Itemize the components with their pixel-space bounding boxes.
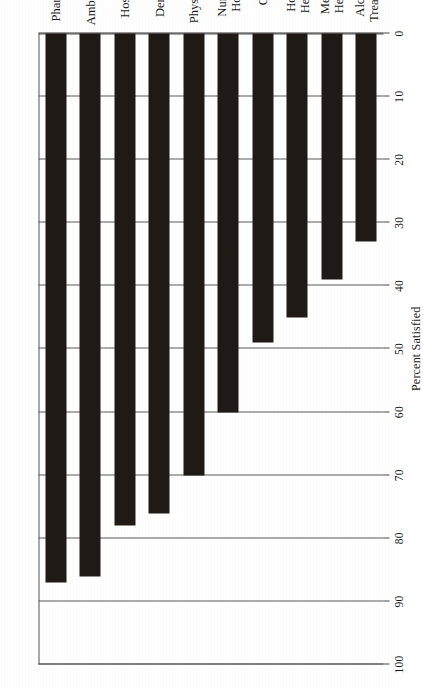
bar: [79, 33, 100, 576]
bar: [321, 33, 342, 279]
category-label-line: Treatment: [366, 0, 380, 25]
tick-label: 20: [392, 153, 404, 165]
category-label: AlcoholTreatment: [352, 0, 380, 25]
tick-mark-80: [383, 537, 389, 538]
category-label: Dentists: [152, 0, 166, 25]
category-label-line: Home: [228, 0, 242, 25]
category-label: Hospital: [117, 0, 131, 25]
category-label-line: Alcohol: [352, 0, 366, 25]
category-label: NursingHome: [214, 0, 242, 25]
category-label-line: Nursing: [214, 0, 228, 25]
category-label: Pharmacy: [48, 0, 62, 25]
category-label-line: Physicians: [186, 0, 200, 25]
category-label-line: OB: [255, 0, 269, 25]
tick-label: 80: [392, 532, 404, 544]
tick-mark-90: [383, 600, 389, 601]
category-label-line: Ambulance: [83, 0, 97, 25]
bar: [183, 33, 204, 475]
category-label-line: Mental: [317, 0, 331, 25]
bar: [252, 33, 273, 342]
tick-label: 30: [392, 216, 404, 228]
tick-label: 10: [392, 90, 404, 102]
tick-mark-60: [383, 411, 389, 412]
bar: [217, 33, 238, 412]
category-label-line: Hospital: [117, 0, 131, 25]
category-label: Physicians: [186, 0, 200, 25]
tick-mark-100: [383, 663, 389, 664]
tick-label: 100: [392, 655, 404, 673]
tick-mark-20: [383, 158, 389, 159]
bar: [355, 33, 376, 241]
tick-label: 60: [392, 406, 404, 418]
tick-mark-30: [383, 221, 389, 222]
bar: [45, 33, 66, 582]
tick-mark-10: [383, 95, 389, 96]
gridline-100: [38, 663, 383, 664]
category-label: HomeHealth: [283, 0, 311, 25]
tick-label: 50: [392, 342, 404, 354]
tick-label: 70: [392, 469, 404, 481]
category-label-line: Home: [283, 0, 297, 25]
tick-label: 90: [392, 595, 404, 607]
category-label: MentalHealth: [317, 0, 345, 25]
category-label-line: Health: [297, 0, 311, 25]
tick-label: 0: [392, 30, 404, 36]
bar: [148, 33, 169, 513]
bar: [114, 33, 135, 525]
value-axis-title: Percent Satisfied: [408, 306, 423, 390]
tick-mark-40: [383, 284, 389, 285]
category-label-line: Health: [331, 0, 345, 25]
category-label: Ambulance: [83, 0, 97, 25]
category-label: OB: [255, 0, 269, 25]
plot-area: [38, 33, 383, 664]
gridline-90: [38, 600, 383, 601]
tick-mark-70: [383, 474, 389, 475]
category-label-line: Dentists: [152, 0, 166, 25]
tick-mark-0: [383, 32, 389, 33]
bar: [286, 33, 307, 317]
tick-mark-50: [383, 347, 389, 348]
category-label-line: Pharmacy: [48, 0, 62, 25]
tick-label: 40: [392, 279, 404, 291]
